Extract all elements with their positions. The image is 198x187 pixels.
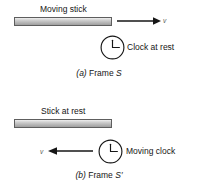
caption-a-frame: S [116, 68, 122, 78]
velocity-arrow-left [48, 146, 93, 156]
caption-b-text: Frame [88, 170, 113, 180]
caption-a: (a) Frame S [0, 68, 198, 79]
stick-at-rest-label: Stick at rest [41, 106, 85, 116]
caption-a-text: Frame [89, 68, 114, 78]
clock-at-rest-label: Clock at rest [127, 42, 174, 52]
panel-frame-s-prime: Stick at rest v Moving clock (b) Frame S… [0, 93, 198, 187]
velocity-label-b: v [40, 148, 43, 155]
clock-at-rest [100, 35, 125, 60]
panel-frame-s: Moving stick v Clock at rest (a) Frame S [0, 0, 198, 93]
clock-moving [98, 139, 123, 164]
caption-b-marker: (b) [76, 170, 86, 180]
caption-b: (b) Frame S′ [0, 170, 198, 181]
caption-a-marker: (a) [76, 68, 86, 78]
caption-b-frame: S′ [115, 170, 122, 180]
moving-stick-label: Moving stick [40, 4, 87, 14]
relativity-frames-figure: Moving stick v Clock at rest (a) Frame S… [0, 0, 198, 187]
velocity-label-a: v [163, 17, 166, 24]
stick-at-rest [14, 119, 112, 128]
moving-clock-label: Moving clock [126, 146, 175, 156]
stick-moving [14, 17, 112, 26]
velocity-arrow-right [117, 16, 161, 26]
